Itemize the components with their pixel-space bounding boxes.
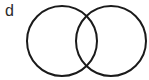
right-circle	[76, 6, 146, 76]
two-circles-diagram	[0, 0, 149, 80]
figure-panel: d	[0, 0, 149, 80]
